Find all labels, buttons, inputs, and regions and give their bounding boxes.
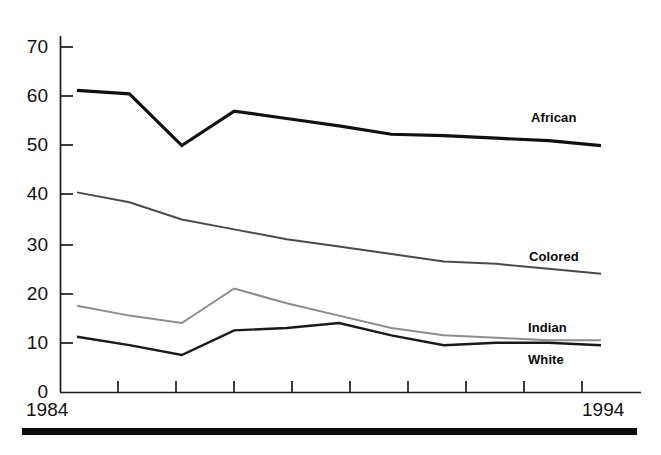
line-chart-figure: 70 60 50 40 30 20 10 0 1984 1994 African…	[0, 0, 661, 455]
y-tick-label-50: 50	[6, 134, 48, 156]
series-label-white: White	[528, 352, 564, 367]
series-line-african	[77, 90, 601, 145]
plot-area	[0, 0, 661, 455]
y-tick-label-60: 60	[6, 85, 48, 107]
x-tick-label-end: 1994	[582, 399, 624, 421]
y-tick-label-10: 10	[6, 332, 48, 354]
series-label-colored: Colored	[529, 249, 579, 264]
y-tick-label-30: 30	[6, 234, 48, 256]
y-tick-label-40: 40	[6, 183, 48, 205]
axis-lines	[60, 36, 641, 393]
series-label-indian: Indian	[528, 320, 567, 335]
x-tick-label-start: 1984	[26, 399, 68, 421]
y-axis-ticks	[60, 47, 73, 343]
x-axis-ticks	[118, 381, 582, 392]
footer-rule	[22, 428, 637, 435]
series-lines	[77, 90, 601, 355]
series-label-african: African	[531, 110, 577, 125]
series-line-colored	[77, 192, 601, 273]
y-tick-label-70: 70	[6, 36, 48, 58]
series-line-indian	[77, 289, 601, 341]
y-tick-label-20: 20	[6, 283, 48, 305]
